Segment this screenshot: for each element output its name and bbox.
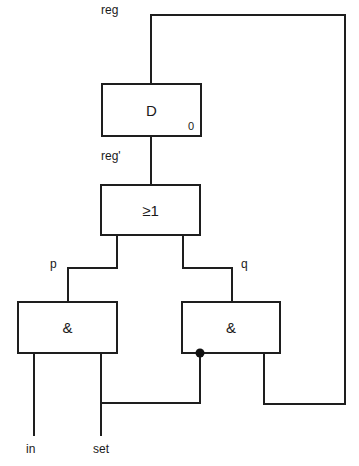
p-wire	[68, 234, 117, 302]
and-gate-right-symbol: &	[182, 320, 280, 335]
in-label: in	[26, 443, 35, 455]
p-label: p	[50, 258, 57, 270]
circuit-diagram	[0, 0, 359, 466]
d-flipflop-init-label: 0	[188, 121, 194, 132]
or-gate-symbol: ≥1	[101, 203, 200, 218]
reg-prime-label: reg'	[101, 150, 121, 162]
set-branch-wire	[101, 353, 200, 403]
q-label: q	[241, 258, 248, 270]
reg-label: reg	[101, 4, 118, 16]
set-label: set	[93, 443, 109, 455]
d-flipflop-symbol: D	[102, 103, 201, 118]
negation-dot-icon	[196, 349, 205, 358]
and-gate-left-symbol: &	[18, 320, 117, 335]
q-wire	[183, 234, 232, 302]
